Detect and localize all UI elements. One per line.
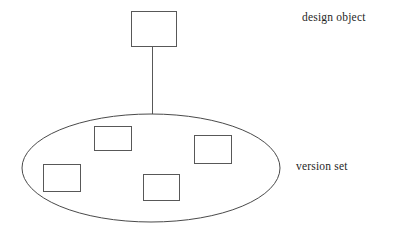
diagram-graphics: [0, 0, 404, 231]
version-box-3[interactable]: [44, 165, 81, 192]
version-box-2[interactable]: [195, 136, 232, 164]
version-set-label: version set: [296, 160, 348, 173]
diagram-canvas: design object version set: [0, 0, 404, 231]
design-object-label: design object: [302, 11, 366, 24]
version-box-1[interactable]: [95, 127, 132, 151]
design-object-box[interactable]: [132, 12, 177, 47]
version-box-4[interactable]: [144, 175, 180, 201]
